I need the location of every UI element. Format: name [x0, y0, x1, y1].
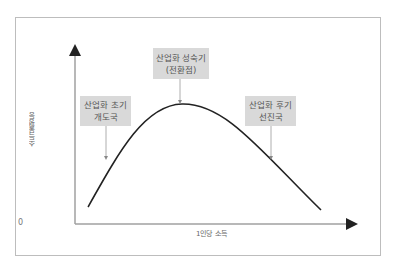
label-mature-line1: 산업화 성숙기: [156, 52, 207, 64]
label-mature-industrialization: 산업화 성숙기 (전환점): [153, 48, 209, 79]
origin-label: 0: [18, 218, 23, 227]
y-axis-label: 소득불평등: [29, 112, 39, 147]
label-early-line1: 산업화 초기: [84, 99, 127, 111]
label-late-line2: 선진국: [259, 111, 283, 123]
label-late-line1: 산업화 후기: [249, 99, 292, 111]
label-mature-line2: (전환점): [166, 64, 197, 76]
x-axis-label: 1인당 소득: [196, 228, 227, 238]
label-late-industrialization: 산업화 후기 선진국: [245, 96, 296, 126]
label-early-line2: 개도국: [94, 111, 118, 123]
label-early-industrialization: 산업화 초기 개도국: [80, 96, 131, 126]
